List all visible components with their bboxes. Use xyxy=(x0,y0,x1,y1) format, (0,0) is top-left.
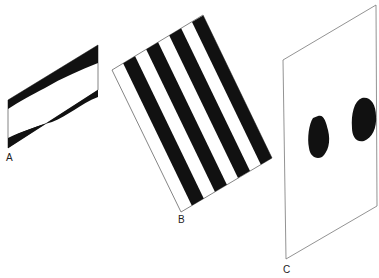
label-c: C xyxy=(283,265,290,275)
panel-a xyxy=(8,45,98,148)
label-a: A xyxy=(6,153,13,163)
figure-canvas xyxy=(0,0,379,278)
panel-c xyxy=(283,5,377,259)
panel-b xyxy=(112,15,273,212)
label-b: B xyxy=(178,215,185,225)
